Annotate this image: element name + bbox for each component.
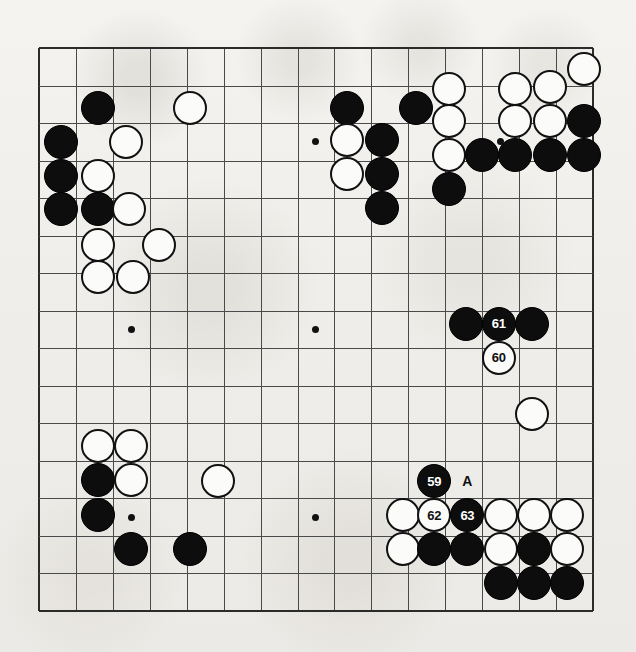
stone-black[interactable] bbox=[515, 307, 549, 341]
move-number-label: 59 bbox=[427, 475, 441, 488]
stone-black[interactable] bbox=[114, 532, 148, 566]
stone-white[interactable] bbox=[550, 498, 584, 532]
stone-black[interactable] bbox=[81, 463, 115, 497]
stone-white[interactable] bbox=[81, 159, 115, 193]
stone-white[interactable] bbox=[517, 498, 551, 532]
stone-white[interactable] bbox=[114, 429, 148, 463]
board-line-vertical bbox=[261, 48, 262, 611]
stone-white[interactable] bbox=[201, 464, 235, 498]
stone-black[interactable] bbox=[417, 532, 451, 566]
stone-white[interactable] bbox=[484, 532, 518, 566]
stone-black[interactable] bbox=[517, 566, 551, 600]
stone-black[interactable] bbox=[432, 172, 466, 206]
board-line-vertical bbox=[150, 48, 151, 611]
stone-black[interactable] bbox=[365, 191, 399, 225]
stone-white[interactable] bbox=[498, 72, 532, 106]
board-line-horizontal bbox=[39, 386, 593, 387]
board-line-vertical bbox=[298, 48, 299, 611]
stone-white[interactable] bbox=[533, 104, 567, 138]
stone-black[interactable] bbox=[498, 138, 532, 172]
stone-white[interactable] bbox=[484, 498, 518, 532]
stone-white[interactable] bbox=[550, 532, 584, 566]
stone-white[interactable] bbox=[81, 429, 115, 463]
star-point bbox=[128, 514, 135, 521]
stone-white[interactable] bbox=[330, 157, 364, 191]
star-point bbox=[128, 326, 135, 333]
star-point bbox=[312, 326, 319, 333]
stone-white[interactable] bbox=[330, 123, 364, 157]
stone-white[interactable] bbox=[432, 72, 466, 106]
stone-black[interactable] bbox=[465, 138, 499, 172]
stone-black[interactable] bbox=[44, 159, 78, 193]
stone-black[interactable] bbox=[365, 157, 399, 191]
stone-black[interactable] bbox=[44, 125, 78, 159]
stone-white[interactable] bbox=[173, 91, 207, 125]
board-line-horizontal bbox=[39, 498, 593, 499]
stone-black[interactable] bbox=[173, 532, 207, 566]
stone-white[interactable] bbox=[386, 498, 420, 532]
board-line-vertical bbox=[187, 48, 188, 611]
board-line-vertical bbox=[76, 48, 77, 611]
stone-white[interactable] bbox=[533, 70, 567, 104]
stone-black[interactable] bbox=[550, 566, 584, 600]
stone-white[interactable] bbox=[109, 125, 143, 159]
stone-white[interactable] bbox=[515, 397, 549, 431]
board-edge-horizontal bbox=[39, 610, 593, 612]
stone-black[interactable] bbox=[44, 192, 78, 226]
board-line-vertical bbox=[224, 48, 225, 611]
board-marker-A: A bbox=[458, 472, 476, 490]
stone-black[interactable] bbox=[81, 91, 115, 125]
stone-black[interactable] bbox=[365, 123, 399, 157]
stone-white[interactable] bbox=[567, 52, 601, 86]
go-board[interactable]: 6160596263A bbox=[0, 0, 636, 652]
stone-black[interactable] bbox=[399, 91, 433, 125]
stone-black-move-63[interactable]: 63 bbox=[450, 498, 484, 532]
stone-black[interactable] bbox=[449, 307, 483, 341]
stone-black[interactable] bbox=[567, 104, 601, 138]
stone-black-move-61[interactable]: 61 bbox=[482, 307, 516, 341]
stone-black[interactable] bbox=[517, 532, 551, 566]
move-number-label: 61 bbox=[492, 317, 506, 330]
stone-white[interactable] bbox=[81, 228, 115, 262]
stone-white-move-60[interactable]: 60 bbox=[482, 341, 516, 375]
stone-black[interactable] bbox=[450, 532, 484, 566]
board-line-horizontal bbox=[39, 236, 593, 237]
stone-white[interactable] bbox=[81, 260, 115, 294]
stone-black[interactable] bbox=[81, 192, 115, 226]
stone-white[interactable] bbox=[112, 192, 146, 226]
stone-white[interactable] bbox=[432, 104, 466, 138]
board-edge-horizontal bbox=[39, 47, 593, 49]
board-edge-vertical bbox=[38, 48, 40, 611]
star-point bbox=[312, 514, 319, 521]
move-number-label: 62 bbox=[427, 509, 441, 522]
stone-black[interactable] bbox=[81, 498, 115, 532]
stone-white[interactable] bbox=[116, 260, 150, 294]
stone-white[interactable] bbox=[498, 104, 532, 138]
stone-black[interactable] bbox=[567, 138, 601, 172]
star-point bbox=[312, 138, 319, 145]
move-number-label: 63 bbox=[460, 509, 474, 522]
stone-black[interactable] bbox=[533, 138, 567, 172]
board-line-horizontal bbox=[39, 423, 593, 424]
move-number-label: 60 bbox=[492, 351, 506, 364]
stone-black[interactable] bbox=[330, 91, 364, 125]
stone-white[interactable] bbox=[432, 138, 466, 172]
stone-white[interactable] bbox=[114, 463, 148, 497]
stone-white[interactable] bbox=[386, 532, 420, 566]
stone-white[interactable] bbox=[142, 228, 176, 262]
stone-black[interactable] bbox=[484, 566, 518, 600]
